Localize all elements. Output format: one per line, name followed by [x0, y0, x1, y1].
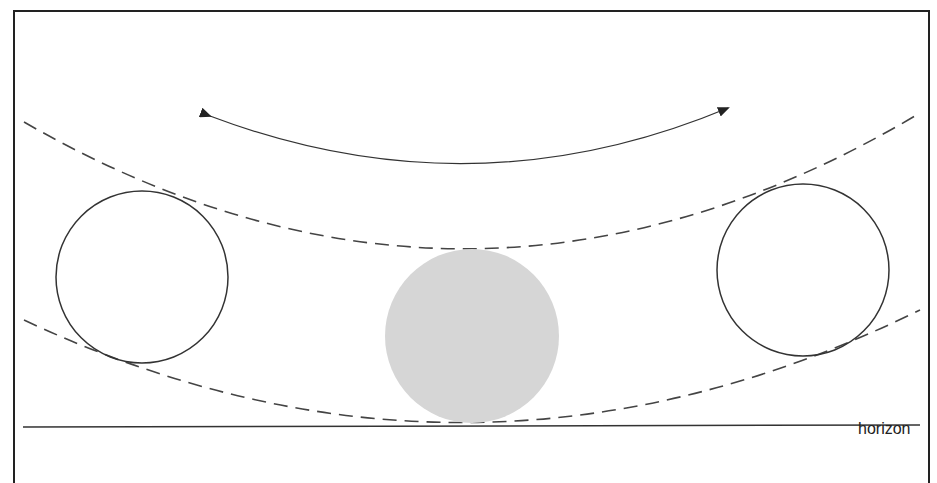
right-circle: [717, 184, 889, 356]
horizon-label: horizon: [858, 420, 910, 438]
diagram-canvas: [0, 0, 937, 483]
left-circle: [56, 191, 228, 363]
horizon-line: [23, 425, 920, 427]
upper-dashed-arc: [24, 113, 920, 249]
double-headed-arrow: [210, 108, 728, 164]
center-sphere: [385, 249, 559, 423]
